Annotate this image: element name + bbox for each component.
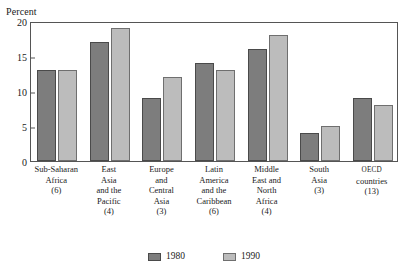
x-axis-label-3: LatinAmericaand theCaribbean(6): [188, 164, 241, 217]
y-axis-tick-mark: [31, 93, 35, 94]
y-axis-tick-label: 20: [17, 18, 27, 28]
bars-layer: [31, 23, 397, 161]
y-axis-tick-mark: [31, 128, 35, 129]
bar-group: [31, 23, 84, 161]
legend-label-1990: 1990: [241, 252, 260, 262]
bar-1980-3: [195, 63, 214, 161]
plot-area: 05101520: [30, 22, 398, 162]
label-line: Europe: [135, 164, 188, 175]
bar-1990-5: [321, 126, 340, 161]
y-axis-tick-label: 5: [22, 123, 27, 133]
label-line: and the: [83, 185, 136, 196]
label-line: OECD: [362, 166, 382, 174]
label-line: Asia: [83, 175, 136, 186]
x-axis-label-1: EastAsiaand thePacific(4): [83, 164, 136, 217]
chart-legend: 19801990: [0, 252, 408, 262]
legend-item-1990[interactable]: 1990: [223, 252, 260, 262]
label-line: East: [83, 164, 136, 175]
y-axis-tick-label: 15: [17, 53, 27, 63]
label-line: (3): [293, 185, 346, 196]
bar-chart: Percent 05101520 Sub-SaharanAfrica(6)Eas…: [0, 0, 408, 274]
y-axis-tick-label: 10: [17, 88, 27, 98]
x-axis-category-labels: Sub-SaharanAfrica(6)EastAsiaand thePacif…: [30, 164, 398, 244]
bar-group: [294, 23, 347, 161]
bar-1980-5: [300, 133, 319, 161]
bar-group: [84, 23, 137, 161]
bar-group: [346, 23, 399, 161]
label-line: OECD: [345, 164, 398, 176]
label-line: Africa: [240, 196, 293, 207]
label-line: Asia: [293, 175, 346, 186]
label-line: (6): [188, 206, 241, 217]
label-line: (4): [240, 206, 293, 217]
label-line: and the: [188, 185, 241, 196]
bar-group: [189, 23, 242, 161]
x-axis-label-6: OECDcountries(13): [345, 164, 398, 197]
bar-1980-0: [37, 70, 56, 161]
bar-group: [241, 23, 294, 161]
bar-1990-1: [111, 28, 130, 161]
label-line: Sub-Saharan: [30, 164, 83, 175]
label-line: Africa: [30, 175, 83, 186]
label-line: South: [293, 164, 346, 175]
label-line: (3): [135, 206, 188, 217]
x-axis-label-4: MiddleEast andNorthAfrica(4): [240, 164, 293, 217]
label-line: countries: [345, 176, 398, 187]
bar-1980-4: [248, 49, 267, 161]
label-line: Asia: [135, 196, 188, 207]
x-axis-label-2: EuropeandCentralAsia(3): [135, 164, 188, 217]
legend-swatch-1990: [223, 253, 236, 261]
y-axis-tick-mark: [31, 58, 35, 59]
label-line: (13): [345, 186, 398, 197]
y-axis-tick-label: 0: [22, 158, 27, 168]
x-axis-label-0: Sub-SaharanAfrica(6): [30, 164, 83, 196]
x-axis-label-5: SouthAsia(3): [293, 164, 346, 196]
bar-1990-6: [374, 105, 393, 161]
label-line: (4): [83, 206, 136, 217]
bar-1980-1: [90, 42, 109, 161]
label-line: Middle: [240, 164, 293, 175]
bar-1990-2: [163, 77, 182, 161]
bar-1990-4: [269, 35, 288, 161]
y-axis-title: Percent: [6, 6, 37, 17]
label-line: and: [135, 175, 188, 186]
label-line: East and: [240, 175, 293, 186]
label-line: (6): [30, 185, 83, 196]
label-line: Central: [135, 185, 188, 196]
label-line: Pacific: [83, 196, 136, 207]
bar-group: [136, 23, 189, 161]
bar-1990-3: [216, 70, 235, 161]
label-line: North: [240, 185, 293, 196]
bar-1980-6: [353, 98, 372, 161]
label-line: America: [188, 175, 241, 186]
legend-label-1980: 1980: [166, 252, 185, 262]
legend-item-1980[interactable]: 1980: [148, 252, 185, 262]
label-line: Latin: [188, 164, 241, 175]
bar-1990-0: [58, 70, 77, 161]
label-line: Caribbean: [188, 196, 241, 207]
legend-swatch-1980: [148, 253, 161, 261]
bar-1980-2: [142, 98, 161, 161]
